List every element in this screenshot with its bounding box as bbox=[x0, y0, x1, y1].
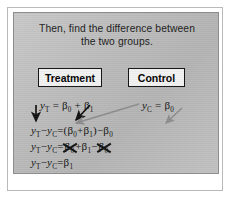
cancelled-beta-0-first: β0 bbox=[64, 140, 76, 155]
beta-subscript-0: 0 bbox=[68, 106, 72, 114]
beta-symbol-l4: β bbox=[64, 156, 70, 168]
y-subscript-C-l3: C bbox=[52, 147, 57, 155]
equals-sign-l4: = bbox=[57, 156, 63, 168]
title-line-2: the two groups. bbox=[22, 35, 212, 48]
gray-arrow-control-to-beta0-parens bbox=[76, 104, 139, 123]
y-symbol-l4b: y bbox=[47, 156, 52, 168]
equation-difference-cancelled: yT−yC=β0+β1−β0 bbox=[31, 140, 109, 155]
y-subscript-T-l2: T bbox=[36, 131, 41, 139]
beta-symbol-2: β bbox=[84, 99, 90, 111]
equals-sign-l2: = bbox=[57, 124, 63, 136]
equals-sign-c: = bbox=[152, 99, 164, 111]
y-symbol-l2b: y bbox=[47, 124, 52, 136]
y-symbol-c: y bbox=[142, 99, 147, 111]
beta-symbol-l3c: β bbox=[99, 140, 105, 152]
beta-symbol: β bbox=[62, 99, 68, 111]
minus-sign-l4: − bbox=[41, 156, 47, 168]
beta-subscript-0-c: 0 bbox=[170, 106, 174, 114]
beta-symbol-l2b: β bbox=[83, 124, 89, 136]
y-subscript-C-l2: C bbox=[52, 131, 57, 139]
treatment-group-label: Treatment bbox=[45, 72, 95, 84]
beta-subscript-1: 1 bbox=[90, 106, 94, 114]
slide-title: Then, find the difference between the tw… bbox=[22, 22, 212, 48]
equals-sign: = bbox=[50, 99, 62, 111]
lparen-l2: ( bbox=[64, 124, 68, 136]
plus-sign-l2: + bbox=[77, 124, 83, 136]
beta-symbol-l3a: β bbox=[65, 140, 71, 152]
equation-difference-expanded: yT−yC=(β0+β1)−β0 bbox=[31, 124, 113, 139]
beta-subscript-1-l2: 1 bbox=[89, 131, 93, 139]
beta-symbol-l2a: β bbox=[67, 124, 73, 136]
beta-subscript-0-l3a: 0 bbox=[70, 147, 74, 155]
equation-difference-result: yT−yC=β1 bbox=[31, 156, 73, 171]
y-symbol-l3a: y bbox=[31, 140, 36, 152]
black-arrow-terms-to-parens bbox=[76, 105, 90, 120]
plus-sign: + bbox=[72, 99, 84, 111]
rparen-l2: ) bbox=[93, 124, 97, 136]
treatment-group-box: Treatment bbox=[38, 68, 102, 87]
y-symbol-l2a: y bbox=[31, 124, 36, 136]
beta-symbol-l2c: β bbox=[103, 124, 109, 136]
control-group-box: Control bbox=[128, 68, 185, 87]
beta-subscript-1-l3: 1 bbox=[87, 147, 91, 155]
y-subscript-C: C bbox=[147, 106, 152, 114]
equals-sign-l3: = bbox=[57, 140, 63, 152]
beta-subscript-0-l3b: 0 bbox=[104, 147, 108, 155]
beta-subscript-0-l2b: 0 bbox=[109, 131, 113, 139]
slide-page: Then, find the difference between the tw… bbox=[0, 0, 232, 200]
control-group-label: Control bbox=[138, 72, 175, 84]
minus-sign-l3: − bbox=[41, 140, 47, 152]
y-symbol-l4a: y bbox=[31, 156, 36, 168]
beta-symbol-c: β bbox=[164, 99, 170, 111]
plus-sign-l3: + bbox=[75, 140, 81, 152]
y-subscript-T-l4: T bbox=[36, 163, 41, 171]
y-subscript-T: T bbox=[45, 106, 50, 114]
minus-sign-l3b: − bbox=[91, 140, 97, 152]
equation-control-model: yC = β0 bbox=[142, 99, 174, 114]
presentation-slide: Then, find the difference between the tw… bbox=[13, 12, 219, 174]
equation-treatment-model: yT = β0 + β1 bbox=[40, 99, 94, 114]
minus-sign-l2b: − bbox=[97, 124, 103, 136]
beta-subscript-0-l2a: 0 bbox=[73, 131, 77, 139]
beta-subscript-1-l4: 1 bbox=[69, 163, 73, 171]
minus-sign-l2: − bbox=[41, 124, 47, 136]
cancelled-beta-0-second: β0 bbox=[98, 140, 110, 155]
y-symbol-l3b: y bbox=[47, 140, 52, 152]
y-symbol: y bbox=[40, 99, 45, 111]
beta-symbol-l3b: β bbox=[82, 140, 88, 152]
title-line-1: Then, find the difference between bbox=[39, 23, 195, 34]
y-subscript-T-l3: T bbox=[36, 147, 41, 155]
gray-arrow-control-to-subtracted-beta0 bbox=[166, 108, 182, 123]
y-subscript-C-l4: C bbox=[52, 163, 57, 171]
